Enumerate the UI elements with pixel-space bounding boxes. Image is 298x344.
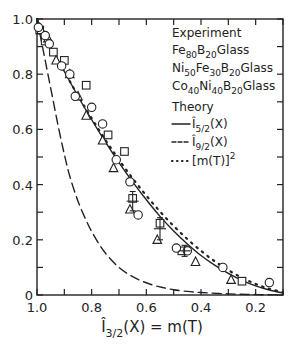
circle-marker	[66, 70, 74, 78]
circle-marker	[126, 178, 134, 186]
triangle-marker	[191, 257, 200, 265]
legend-title-theory: Theory	[171, 100, 214, 114]
y-tick-label: 0.6	[12, 122, 33, 137]
legend-entry-dotted: [m(T)]2	[192, 151, 235, 168]
circle-marker	[45, 40, 53, 48]
x-tick-labels: 1.00.80.60.40.2	[27, 300, 266, 315]
circle-marker	[98, 120, 106, 128]
square-marker	[104, 131, 112, 139]
circle-marker	[87, 103, 95, 111]
x-tick-label: 0.4	[191, 300, 212, 315]
x-tick-label: 0.8	[81, 300, 102, 315]
circle-marker	[219, 263, 227, 271]
experiment-points	[34, 23, 273, 287]
curve-dotted	[37, 19, 283, 292]
square-marker	[82, 81, 90, 89]
y-tick-label: 0.8	[12, 67, 33, 82]
circle-marker	[57, 62, 65, 70]
y-tick-label: 0.4	[12, 178, 33, 193]
legend-title-experiment: Experiment	[172, 26, 242, 40]
legend-entry-triangle: Ni50Fe30B20Glass	[172, 61, 273, 78]
circle-marker	[71, 92, 79, 100]
legend-entry-dashed: Î9/2(X)	[191, 134, 228, 152]
square-marker	[238, 277, 246, 285]
legend: ExperimentFe80B20GlassNi50Fe30B20GlassCo…	[171, 26, 275, 168]
circle-marker	[34, 23, 42, 31]
x-axis-title: Î3/2(X) = m(T)	[100, 317, 203, 340]
x-tick-label: 0.2	[245, 300, 266, 315]
x-axis-title-text: Î3/2(X) = m(T)	[100, 317, 203, 340]
legend-entry-circle: Co40Ni40B20Glass	[172, 79, 275, 96]
circle-marker	[41, 31, 49, 39]
square-marker	[121, 148, 129, 156]
y-tick-labels: 00.20.40.60.81.0	[12, 12, 33, 303]
x-tick-label: 0.6	[136, 300, 157, 315]
circle-marker	[134, 211, 142, 219]
y-tick-label: 1.0	[12, 12, 33, 27]
circle-marker	[112, 156, 120, 164]
y-tick-label: 0.2	[12, 233, 33, 248]
x-tick-label: 1.0	[27, 300, 48, 315]
legend-entry-square: Fe80B20Glass	[172, 43, 249, 60]
chart: 00.20.40.60.81.0 1.00.80.60.40.2 Experim…	[0, 0, 298, 344]
legend-entry-solid: Î5/2(X)	[191, 116, 228, 134]
circle-marker	[265, 278, 273, 286]
